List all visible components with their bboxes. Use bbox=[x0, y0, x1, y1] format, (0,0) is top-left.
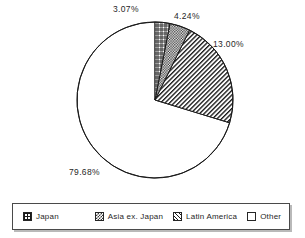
pie-plot-area: 3.07% 4.24% 13.00% 79.68% bbox=[0, 0, 305, 196]
legend-item-japan: Japan bbox=[23, 212, 59, 221]
legend-label-japan: Japan bbox=[36, 213, 59, 221]
legend-swatch-asia-ex-japan-icon bbox=[95, 212, 104, 221]
legend-item-asia-ex-japan: Asia ex. Japan bbox=[95, 212, 163, 221]
legend-label-asia-ex-japan: Asia ex. Japan bbox=[108, 213, 163, 221]
pie-chart-figure: 3.07% 4.24% 13.00% 79.68% Japan Asia ex.… bbox=[0, 0, 305, 238]
data-label-japan: 3.07% bbox=[113, 5, 139, 14]
legend-label-latin-america: Latin America bbox=[186, 213, 237, 221]
data-label-asia-ex-japan: 4.24% bbox=[174, 12, 200, 21]
legend-swatch-other-icon bbox=[247, 212, 256, 221]
legend-swatch-japan-icon bbox=[23, 212, 32, 221]
pie-svg bbox=[0, 0, 305, 196]
chart-legend: Japan Asia ex. Japan Latin America Other bbox=[12, 203, 290, 230]
legend-row: Japan Asia ex. Japan Latin America Other bbox=[13, 204, 289, 229]
legend-label-other: Other bbox=[260, 213, 281, 221]
data-label-other: 79.68% bbox=[69, 168, 100, 177]
legend-swatch-latin-america-icon bbox=[173, 212, 182, 221]
data-label-latin-america: 13.00% bbox=[213, 40, 244, 49]
legend-item-other: Other bbox=[247, 212, 281, 221]
legend-item-latin-america: Latin America bbox=[173, 212, 237, 221]
